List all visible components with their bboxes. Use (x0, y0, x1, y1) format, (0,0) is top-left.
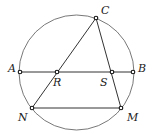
point-s (110, 70, 114, 74)
label-n: N (17, 111, 28, 124)
point-n (30, 106, 34, 110)
point-a (18, 70, 22, 74)
segment-cn (32, 18, 96, 108)
segments (20, 18, 133, 108)
label-r: R (52, 76, 61, 89)
label-a: A (7, 62, 16, 75)
point-r (55, 70, 59, 74)
point-m (119, 106, 123, 110)
point-c (94, 16, 98, 20)
diagram-svg: C A B R S N M (0, 0, 153, 134)
label-b: B (137, 62, 146, 75)
label-c: C (101, 4, 110, 17)
geometry-diagram: C A B R S N M (0, 0, 153, 134)
labels: C A B R S N M (7, 4, 146, 124)
label-m: M (126, 111, 139, 124)
label-s: S (100, 76, 108, 89)
point-b (131, 70, 135, 74)
